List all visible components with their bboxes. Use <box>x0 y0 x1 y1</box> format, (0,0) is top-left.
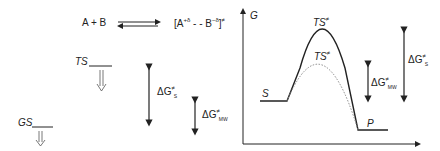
ts: TS <box>313 17 326 28</box>
sup: ≠ <box>216 108 219 114</box>
sup: ≠ <box>171 85 174 91</box>
dg-mw-plot-label: ΔG≠MW <box>371 76 397 90</box>
gs-label: GS <box>18 117 32 128</box>
gs-down-arrow-icon <box>36 131 45 146</box>
ts-upper-label: TS≠ <box>313 16 329 28</box>
product-label: P <box>367 118 374 129</box>
charge-b: −δ <box>212 17 219 23</box>
delta-g: ΔG <box>202 109 216 120</box>
dg-s-plot-label: ΔG≠S <box>408 53 428 67</box>
sub: MW <box>388 84 397 90</box>
energy-profile-curve <box>260 29 388 130</box>
ts-symbol: ≠ <box>222 17 225 23</box>
ts: TS <box>314 51 327 62</box>
sup: ≠ <box>326 16 329 22</box>
bond-b: - - B <box>190 18 212 29</box>
sup: ≠ <box>327 50 330 56</box>
equilibrium-arrows-icon <box>118 22 158 26</box>
sup: ≠ <box>385 76 388 82</box>
delta-g: ΔG <box>408 54 422 65</box>
delta-g: ΔG <box>157 86 171 97</box>
transition-complex-label: [A+δ - - B−δ]≠ <box>174 17 225 29</box>
dg-s-label: ΔG≠S <box>157 85 177 99</box>
sub: MW <box>219 116 228 122</box>
y-axis-label: G <box>250 10 258 21</box>
sup: ≠ <box>422 53 425 59</box>
dg-mw-label: ΔG≠MW <box>202 108 228 122</box>
start-label: S <box>262 88 269 99</box>
ts-down-arrow-icon <box>97 70 106 91</box>
delta-g: ΔG <box>371 77 385 88</box>
reactants-label: A + B <box>82 17 106 28</box>
ts-lower-label: TS≠ <box>314 50 330 62</box>
sub: S <box>174 93 177 99</box>
ts-label: TS <box>75 56 88 67</box>
sub: S <box>425 61 428 67</box>
